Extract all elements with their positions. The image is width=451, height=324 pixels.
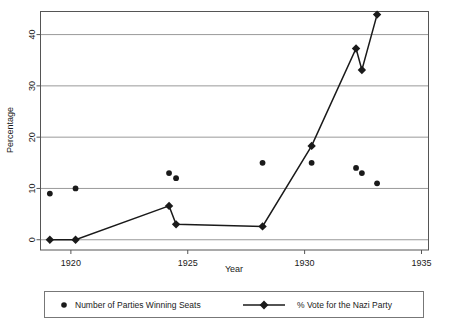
legend-label-nazi-vote: % Vote for the Nazi Party	[297, 300, 393, 310]
data-point-parties-3	[173, 175, 179, 181]
chart-figure: 1920192519301935 010203040 Year Percenta…	[0, 0, 451, 324]
y-tick-label-0: 0	[28, 237, 38, 242]
y-tick-label-20: 20	[28, 132, 38, 142]
chart-container: 1920192519301935 010203040 Year Percenta…	[0, 0, 451, 324]
data-point-parties-5	[309, 160, 315, 166]
data-point-parties-8	[374, 180, 380, 186]
legend-label-parties: Number of Parties Winning Seats	[75, 300, 201, 310]
x-tick-label-1920: 1920	[61, 258, 81, 268]
data-point-parties-1	[73, 186, 79, 192]
x-tick-label-1925: 1925	[178, 258, 198, 268]
y-tick-label-30: 30	[28, 81, 38, 91]
x-tick-label-1930: 1930	[295, 258, 315, 268]
data-point-parties-7	[359, 170, 365, 176]
y-axis-title: Percentage	[5, 107, 15, 153]
data-point-parties-6	[353, 165, 359, 171]
figure-background	[0, 0, 451, 324]
data-point-parties-0	[47, 191, 53, 197]
x-tick-label-1935: 1935	[411, 258, 431, 268]
data-point-parties-2	[166, 170, 172, 176]
y-tick-label-40: 40	[28, 30, 38, 40]
x-axis-title: Year	[225, 264, 243, 274]
circle-marker-icon	[61, 302, 67, 308]
y-tick-label-10: 10	[28, 183, 38, 193]
data-point-parties-4	[260, 160, 266, 166]
